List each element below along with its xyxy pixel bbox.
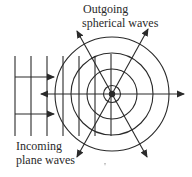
small-mark <box>104 163 106 166</box>
outgoing-label-line1: Outgoing <box>83 3 128 15</box>
incoming-label-line1: Incoming <box>16 140 62 152</box>
scattering-center <box>109 91 115 97</box>
incoming-label-line2: plane waves <box>16 154 75 166</box>
outgoing-label-line2: spherical waves <box>82 17 158 29</box>
outgoing-arrow-up-right <box>112 29 148 94</box>
scattering-diagram: Outgoing spherical waves Incoming plane … <box>0 0 192 177</box>
outgoing-arrow-down-right <box>112 94 147 157</box>
